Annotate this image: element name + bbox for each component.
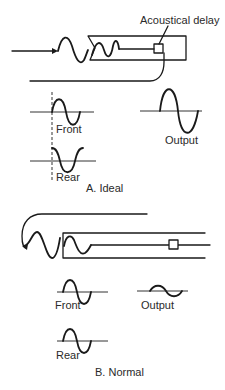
front-waveform-b: Front xyxy=(55,280,108,311)
svg-text:Front: Front xyxy=(55,299,81,311)
output-waveform-b: Output xyxy=(137,286,188,311)
svg-text:Output: Output xyxy=(165,134,198,146)
incoming-sound-arrow xyxy=(12,48,58,54)
panel-b-caption: B. Normal xyxy=(95,366,144,378)
inside-wave-b xyxy=(64,236,91,253)
acoustical-delay-label: Acoustical delay xyxy=(140,14,220,26)
svg-text:Front: Front xyxy=(56,123,82,135)
callout-leader xyxy=(159,26,168,44)
acoustical-delay-box-b xyxy=(169,240,178,249)
svg-text:Output: Output xyxy=(141,299,174,311)
svg-text:Rear: Rear xyxy=(56,171,80,183)
incoming-curved-path xyxy=(22,214,147,248)
incoming-wave-b xyxy=(24,232,60,258)
diagram-canvas: Acoustical delay Front Rear Output A. Id… xyxy=(0,0,225,390)
panel-a-caption: A. Ideal xyxy=(86,182,123,194)
rear-waveform-a: Rear xyxy=(30,148,96,183)
rear-waveform-b: Rear xyxy=(56,329,108,361)
panel-b-normal: Front Output Rear B. Normal xyxy=(22,214,210,378)
incoming-wave xyxy=(58,38,88,63)
panel-a-ideal: Acoustical delay Front Rear Output A. Id… xyxy=(12,14,220,194)
svg-text:Rear: Rear xyxy=(56,349,80,361)
output-waveform-a: Output xyxy=(140,89,202,146)
front-waveform-a: Front xyxy=(30,99,94,135)
rear-path xyxy=(30,53,164,81)
inside-wave xyxy=(92,41,119,56)
acoustical-delay-box xyxy=(154,44,163,53)
